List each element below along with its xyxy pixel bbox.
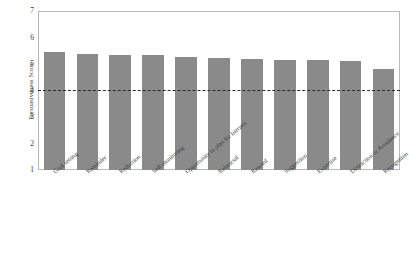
bar bbox=[77, 54, 99, 170]
y-axis-title: Persuasiveness Score bbox=[27, 31, 34, 151]
reference-line bbox=[38, 90, 400, 91]
bar bbox=[44, 52, 66, 170]
x-axis-labels: Goal settingReminderReductionSelf-monito… bbox=[38, 170, 400, 262]
bar bbox=[307, 60, 329, 170]
bar bbox=[109, 55, 131, 170]
bar-chart: Persuasiveness Score 1234567 Goal settin… bbox=[0, 0, 409, 262]
bar bbox=[340, 61, 362, 170]
bar bbox=[274, 60, 296, 170]
bar bbox=[142, 55, 164, 170]
y-axis-title-holder: Persuasiveness Score bbox=[8, 11, 28, 170]
bar bbox=[241, 59, 263, 170]
